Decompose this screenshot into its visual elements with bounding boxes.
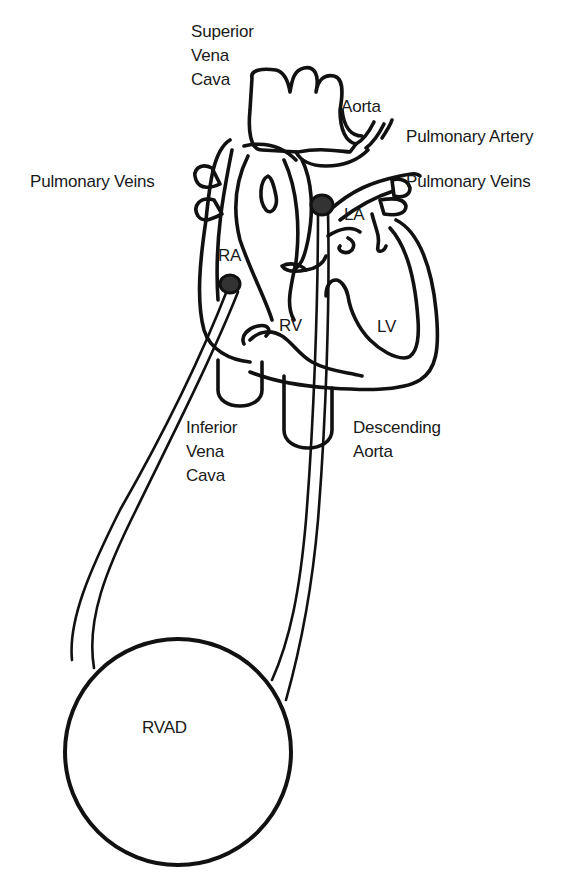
label-aorta: Aorta xyxy=(341,95,381,119)
rvad-pump-circle xyxy=(65,639,291,865)
label-la: LA xyxy=(344,203,364,227)
label-pulmonary-veins-left: Pulmonary Veins xyxy=(30,170,155,194)
label-inferior-vena-cava: Inferior Vena Cava xyxy=(186,416,237,488)
label-superior-vena-cava: Superior Vena Cava xyxy=(191,20,254,92)
ra-cannula-tip xyxy=(220,275,240,293)
label-pulmonary-artery: Pulmonary Artery xyxy=(406,125,533,149)
label-lv: LV xyxy=(377,315,396,339)
pa-cannula-tip xyxy=(311,195,333,215)
label-descending-aorta: Descending Aorta xyxy=(353,416,441,464)
inferior-vena-cava-shape xyxy=(218,360,262,406)
label-pulmonary-veins-right: Pulmonary Veins xyxy=(406,170,531,194)
label-ra: RA xyxy=(218,244,241,268)
label-rv: RV xyxy=(279,314,302,338)
label-rvad: RVAD xyxy=(142,716,187,740)
